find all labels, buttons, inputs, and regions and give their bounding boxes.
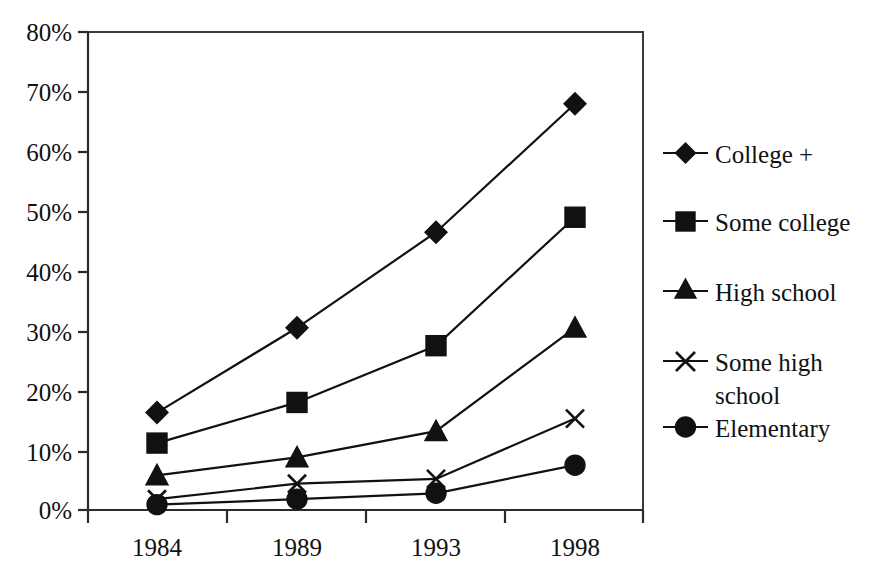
series-line [157,465,575,504]
x-tick-label: 1984 [132,534,183,561]
series-some-high-school [148,410,584,509]
y-tick-label: 50% [26,199,72,226]
legend-item-high-school[interactable]: High school [663,279,837,306]
data-point-circle [565,455,585,475]
legend-item-elementary[interactable]: Elementary [663,415,831,442]
legend-label-line2: school [715,382,780,409]
square-icon [676,212,695,231]
line-chart: 80% 70% 60% 50% 40% 30% 20% 10% 0% 1984 … [0,0,872,585]
legend-item-some-college[interactable]: Some college [663,209,850,236]
y-tick-label: 10% [26,439,72,466]
legend-label: Some college [715,209,850,236]
data-point-circle [426,483,446,503]
x-tick-label: 1993 [411,534,461,561]
y-axis-ticks [78,32,88,510]
y-axis-tick-labels: 80% 70% 60% 50% 40% 30% 20% 10% 0% [26,19,72,524]
series-line [157,419,575,500]
y-tick-label: 30% [26,319,72,346]
y-tick-label: 80% [26,19,72,46]
x-axis-ticks [88,510,643,523]
data-point-x [566,410,584,428]
y-tick-label: 70% [26,79,72,106]
series-line [157,328,575,476]
series-line [157,217,575,443]
data-point-circle [287,489,307,509]
triangle-icon [675,279,696,298]
data-point-triangle [425,420,447,440]
series-layer [146,93,586,515]
data-point-square [287,392,307,412]
legend-label: College + [715,141,813,168]
data-point-square [565,207,585,227]
legend-label: Some high [715,349,823,376]
data-point-diamond [286,317,308,339]
y-tick-label: 40% [26,259,72,286]
circle-icon [676,417,696,437]
legend-item-college-plus[interactable]: College + [663,141,813,168]
y-tick-label: 20% [26,379,72,406]
series-line [157,104,575,413]
legend-label: Elementary [715,415,831,442]
data-point-triangle [564,317,586,337]
chart-page: 80% 70% 60% 50% 40% 30% 20% 10% 0% 1984 … [0,0,872,585]
chart-legend: College + Some college High school Some … [663,141,850,442]
series-some-college [147,207,585,453]
x-tick-label: 1989 [272,534,322,561]
legend-item-some-high-school[interactable]: Some high school [663,349,823,409]
data-point-diamond [146,402,168,424]
legend-label: High school [715,279,837,306]
data-point-square [147,433,167,453]
data-point-circle [147,495,167,515]
data-point-square [426,336,446,356]
diamond-icon [676,143,696,163]
y-tick-label: 60% [26,139,72,166]
series-high-school [146,317,586,485]
x-tick-label: 1998 [550,534,600,561]
y-tick-label: 0% [39,497,72,524]
x-axis-tick-labels: 1984 1989 1993 1998 [132,534,600,561]
series-elementary [147,455,585,514]
